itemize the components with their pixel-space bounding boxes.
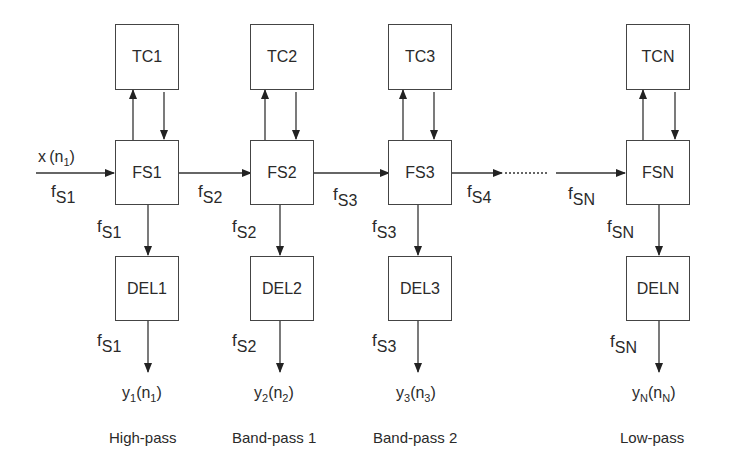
rate-label-fsn-down: fSN	[607, 218, 634, 241]
fsn-block: FSN	[626, 140, 690, 205]
rate-label-fs2: fS2	[198, 183, 222, 206]
rate-label-del1-out: fS1	[97, 332, 121, 355]
caption-high-pass: High-pass	[109, 429, 177, 446]
output-y2: y2(n2)	[254, 384, 294, 404]
del3-block: DEL3	[388, 256, 452, 321]
fs3-block: FS3	[388, 140, 452, 205]
del1-block: DEL1	[115, 256, 179, 321]
output-yn: yN(nN)	[632, 384, 675, 404]
caption-band-pass-1: Band-pass 1	[232, 429, 316, 446]
output-y3: y3(n3)	[396, 384, 436, 404]
tc3-block: TC3	[388, 24, 452, 90]
rate-label-del3-out: fS3	[372, 332, 396, 355]
rate-label-fs3-down: fS3	[372, 218, 396, 241]
rate-label-fs4: fS4	[467, 183, 491, 206]
rate-label-fs1-down: fS1	[97, 218, 121, 241]
rate-label-deln-out: fSN	[610, 333, 637, 356]
fs1-block: FS1	[115, 140, 179, 205]
tcn-block: TCN	[626, 24, 690, 90]
deln-block: DELN	[626, 256, 690, 321]
rate-label-fs3: fS3	[333, 186, 357, 209]
rate-label-del2-out: fS2	[232, 332, 256, 355]
caption-low-pass: Low-pass	[620, 429, 684, 446]
tc1-block: TC1	[115, 24, 179, 90]
fs2-block: FS2	[250, 140, 314, 205]
input-rate-label: fS1	[51, 183, 75, 206]
rate-label-fs2-down: fS2	[232, 218, 256, 241]
rate-label-fsn-input: fSN	[568, 185, 595, 208]
del2-block: DEL2	[250, 256, 314, 321]
tc2-block: TC2	[250, 24, 314, 90]
input-signal-label: x (n1)	[38, 148, 75, 168]
output-y1: y1(n1)	[122, 384, 162, 404]
caption-band-pass-2: Band-pass 2	[373, 429, 457, 446]
